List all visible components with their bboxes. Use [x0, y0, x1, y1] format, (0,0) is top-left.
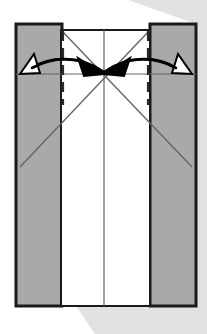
left-shaded-panel — [16, 24, 62, 306]
folding-diagram-figure — [0, 0, 207, 334]
diagram-canvas — [0, 0, 207, 334]
